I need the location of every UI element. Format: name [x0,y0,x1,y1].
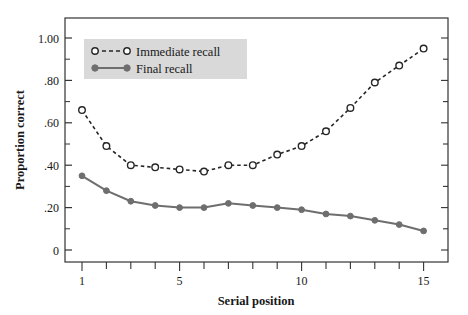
y-axis-tick-labels: 1.00 .80 .60 .40 .20 0 [38,32,59,258]
y-tick-label: .20 [44,201,59,215]
y-tick-label: .80 [44,74,59,88]
x-tick-label: 1 [79,274,85,288]
data-point [372,79,379,86]
data-point [104,188,110,194]
data-point [250,203,256,209]
legend-label-immediate-recall: Immediate recall [136,45,221,59]
data-point [176,166,183,173]
x-axis-ticks [82,262,424,271]
y-axis-minor-ticks [65,59,70,229]
data-point [372,217,378,223]
data-point [225,162,232,169]
data-point [79,173,85,179]
legend: Immediate recall Final recall [84,39,247,79]
data-point [348,213,354,219]
legend-label-final-recall: Final recall [136,62,193,76]
data-point [103,143,110,150]
data-point [274,151,281,158]
x-tick-label: 10 [296,274,308,288]
data-point [152,203,158,209]
data-point [201,205,207,211]
y-tick-label: 0 [53,244,59,258]
data-point [274,205,280,211]
x-tick-label: 5 [177,274,183,288]
data-point [421,228,427,234]
data-point [128,162,135,169]
data-point [177,205,183,211]
series-final-recall [79,173,426,234]
data-point [128,198,134,204]
data-point [347,105,354,112]
data-point [323,211,329,217]
data-point [152,164,159,171]
y-tick-label: .40 [44,159,59,173]
y-tick-label: 1.00 [38,32,59,46]
x-axis-title: Serial position [218,294,295,308]
data-point [79,107,86,114]
data-point [226,200,232,206]
data-point [299,207,305,213]
serial-position-figure: 1.00 .80 .60 .40 .20 0 Proportion correc… [0,0,468,315]
x-tick-label: 15 [418,274,430,288]
data-point [323,128,330,135]
y-axis-title: Proportion correct [13,89,27,190]
data-point [396,222,402,228]
data-point [298,143,305,150]
y-tick-label: .60 [44,116,59,130]
data-point [420,45,427,52]
right-axis-ticks [441,38,448,250]
data-point [201,168,208,175]
data-point [396,62,403,69]
x-axis-tick-labels: 1 5 10 15 [79,274,430,288]
chart-canvas: 1.00 .80 .60 .40 .20 0 Proportion correc… [0,0,468,315]
data-point [250,162,257,169]
